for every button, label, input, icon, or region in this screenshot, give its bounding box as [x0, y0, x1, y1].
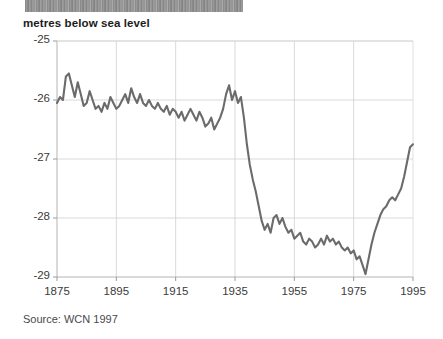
gridlines — [57, 41, 413, 277]
chart-figure: metres below sea level -25-26-27-28-29 1… — [0, 0, 443, 339]
x-axis-tick-label: 1975 — [331, 285, 377, 297]
tick-marks — [53, 41, 413, 281]
y-axis-tick-label: -28 — [18, 210, 50, 222]
y-axis-tick-label: -26 — [18, 92, 50, 104]
x-axis-tick-label: 1875 — [34, 285, 80, 297]
y-axis-tick-label: -27 — [18, 151, 50, 163]
x-axis-tick-label: 1895 — [93, 285, 139, 297]
y-axis-tick-label: -25 — [18, 33, 50, 45]
x-axis-tick-label: 1955 — [271, 285, 317, 297]
y-axis-tick-label: -29 — [18, 269, 50, 281]
x-axis-tick-label: 1915 — [153, 285, 199, 297]
x-axis-tick-label: 1995 — [390, 285, 436, 297]
x-axis-tick-label: 1935 — [212, 285, 258, 297]
source-note: Source: WCN 1997 — [23, 313, 118, 325]
